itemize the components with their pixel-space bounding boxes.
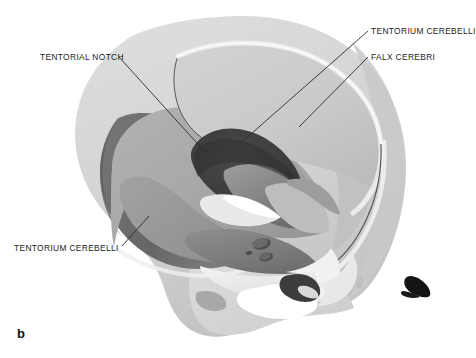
annotation-label-tentorial-notch: TENTORIAL NOTCH — [40, 53, 124, 61]
annotation-label-tentorium-cerebelli-top: TENTORIUM CEREBELLI — [371, 27, 476, 35]
annotation-label-falx-cerebri: FALX CEREBRI — [371, 53, 435, 61]
annotation-label-tentorium-cerebelli-bottom: TENTORIUM CEREBELLI — [14, 244, 119, 252]
figure-letter: b — [17, 327, 25, 340]
external-acoustic-meatus — [401, 276, 430, 298]
